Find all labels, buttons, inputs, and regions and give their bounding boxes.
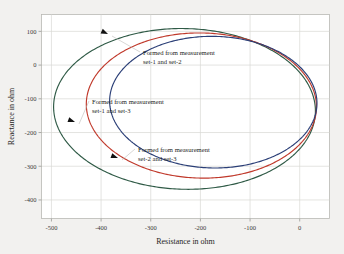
chart-figure: -500-400-300-200-10001000-100-200-300-40… xyxy=(0,0,344,254)
ytick-label: 0 xyxy=(33,61,36,68)
x-axis-title: Resistance in ohm xyxy=(156,237,215,246)
annotation-line-1: Formed from measurement xyxy=(138,146,210,153)
annotation-line-2: set-2 and set-3 xyxy=(138,155,177,162)
annotation-line-1: Formed from measurement xyxy=(143,49,215,56)
xtick-label: -300 xyxy=(145,224,157,231)
xtick-label: -500 xyxy=(45,224,57,231)
ytick-label: -100 xyxy=(25,95,37,102)
plot-area xyxy=(42,15,330,219)
xtick-label: -100 xyxy=(244,224,256,231)
ytick-label: 100 xyxy=(27,28,37,35)
ytick-label: -400 xyxy=(25,196,37,203)
y-axis-title: Reactance in ohm xyxy=(7,87,16,145)
xtick-label: -400 xyxy=(95,224,107,231)
annotation-line-2: set-1 and set-2 xyxy=(143,58,181,65)
xtick-label: -200 xyxy=(194,224,206,231)
annotation-line-1: Formed from measurement xyxy=(92,98,164,105)
ytick-label: -200 xyxy=(25,129,37,136)
ytick-label: -300 xyxy=(25,163,37,170)
ellipse-plot: -500-400-300-200-10001000-100-200-300-40… xyxy=(0,0,344,254)
annotation-line-2: set-1 and set-3 xyxy=(92,107,131,114)
xtick-label: 0 xyxy=(298,224,301,231)
